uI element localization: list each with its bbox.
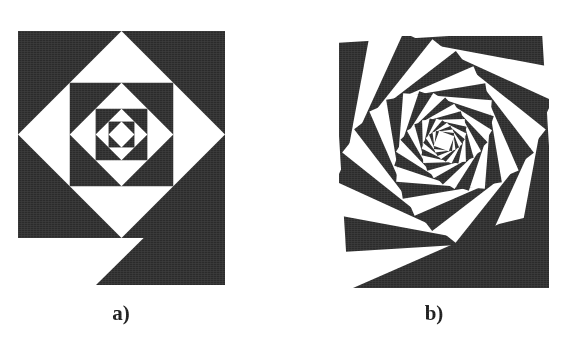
spiral-a-layers — [18, 31, 225, 238]
spiral-diagram-a — [18, 31, 225, 285]
figure-panel-a: a) — [0, 0, 285, 346]
panel-label-a: a) — [95, 303, 147, 324]
figure-row: a) b) — [0, 0, 571, 346]
spiral-diagram-b — [339, 36, 549, 288]
panel-label-b: b) — [408, 303, 460, 324]
figure-panel-b: b) — [285, 0, 571, 346]
